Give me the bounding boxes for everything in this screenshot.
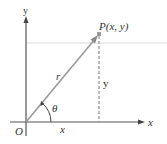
y-axis-arrow-icon (24, 16, 29, 23)
x-axis-label: x (148, 117, 153, 128)
y-segment-label: y (103, 78, 109, 89)
theta-arc (42, 103, 51, 122)
point-p-marker (97, 32, 101, 36)
y-axis-label: y (23, 6, 28, 16)
diagram-canvas (0, 0, 167, 144)
angle-label: θ (52, 103, 57, 114)
radius-label: r (56, 71, 60, 82)
x-axis-arrow-icon (138, 120, 145, 125)
x-segment-label: x (60, 124, 65, 135)
point-label: P(x, y) (99, 21, 128, 32)
radius-ray (26, 39, 95, 122)
polar-coordinate-diagram: y x O P(x, y) r θ x y (0, 0, 167, 144)
origin-label: O (15, 126, 23, 137)
